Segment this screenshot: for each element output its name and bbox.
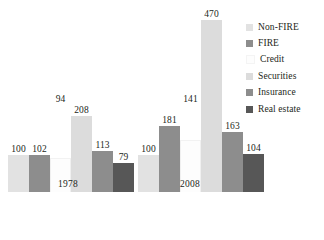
bar-value-label: 470 [204, 9, 219, 19]
bar-value-label: 181 [162, 115, 177, 125]
bar-slot-2008-credit: 141 [180, 0, 201, 192]
bar-slot-2008-securities: 470 [201, 0, 222, 192]
bar-slot-1978-fire: 102 [29, 0, 50, 192]
legend-item-credit[interactable]: Credit [246, 52, 324, 68]
legend-swatch-icon [246, 40, 253, 47]
legend-label: Insurance [258, 87, 296, 98]
bar-value-label: 163 [225, 121, 240, 131]
bar-slot-1978-insurance: 113 [92, 0, 113, 192]
legend-swatch-icon [246, 89, 253, 96]
bar-value-label: 100 [11, 144, 26, 154]
legend-item-securities[interactable]: Securities [246, 68, 324, 84]
legend-label: Credit [260, 54, 284, 65]
bar-slot-2008-insurance: 163 [222, 0, 243, 192]
bar-slot-1978-credit: 94 [50, 0, 71, 192]
legend-label: Non-FIRE [258, 22, 299, 33]
bar-value-label: 79 [119, 152, 129, 162]
legend-swatch-icon [246, 24, 253, 31]
bar-chart: 1001029420811379 1978 100181141470163104… [0, 0, 324, 240]
legend-swatch-icon [246, 106, 253, 113]
legend-swatch-icon [246, 73, 253, 80]
bar-group-1978-bars: 1001029420811379 [8, 0, 128, 192]
legend-label: Securities [258, 71, 296, 82]
bar-group-1978: 1001029420811379 1978 [8, 0, 128, 192]
bar-slot-1978-securities: 208 [71, 0, 92, 192]
bar-value-label: 100 [141, 144, 156, 154]
legend-item-non-fire[interactable]: Non-FIRE [246, 19, 324, 35]
legend-item-real-estate[interactable]: Real estate [246, 101, 324, 117]
legend-swatch-icon [246, 55, 255, 64]
bar-value-label: 113 [95, 140, 109, 150]
bar-value-label: 104 [246, 143, 261, 153]
bar-slot-2008-fire: 181 [159, 0, 180, 192]
bar-slot-2008-non-fire: 100 [138, 0, 159, 192]
chart-legend: Non-FIREFIRECreditSecuritiesInsuranceRea… [246, 19, 324, 117]
legend-label: Real estate [258, 104, 301, 115]
bar-value-label: 94 [56, 94, 66, 104]
bar-2008-real-estate[interactable] [243, 154, 264, 192]
bar-group-2008-bars: 100181141470163104 [138, 0, 242, 192]
bar-value-label: 208 [74, 105, 89, 115]
bar-group-2008: 100181141470163104 2008 [138, 0, 242, 192]
bar-2008-securities[interactable] [201, 20, 222, 192]
group-label-2008: 2008 [138, 179, 242, 190]
group-label-1978: 1978 [8, 179, 128, 190]
plot-area: 1001029420811379 1978 100181141470163104… [0, 0, 245, 216]
bar-slot-1978-real-estate: 79 [113, 0, 134, 192]
bar-value-label: 102 [32, 144, 47, 154]
bar-value-label: 141 [183, 94, 198, 104]
legend-item-fire[interactable]: FIRE [246, 35, 324, 51]
bar-slot-1978-non-fire: 100 [8, 0, 29, 192]
legend-label: FIRE [258, 38, 279, 49]
legend-item-insurance[interactable]: Insurance [246, 85, 324, 101]
